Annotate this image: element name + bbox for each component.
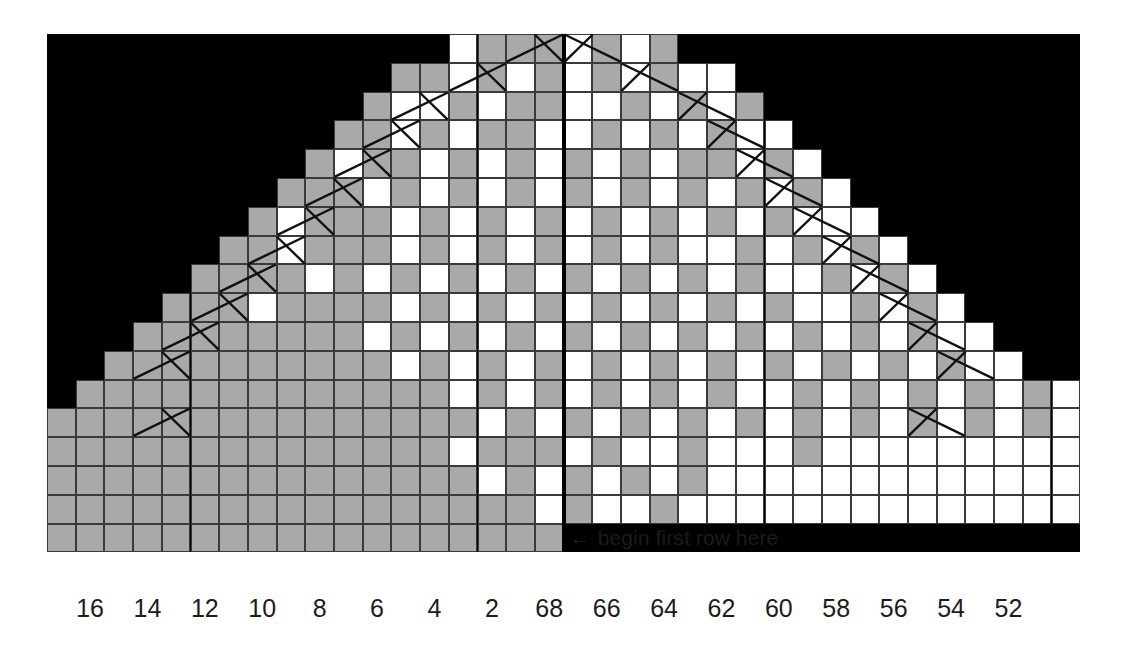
stitch-cell <box>707 63 736 92</box>
stitch-cell <box>822 380 851 409</box>
stitch-cell <box>391 207 420 236</box>
stitch-cell <box>678 120 707 149</box>
stitch-cell <box>564 408 593 437</box>
stitch-cell <box>765 264 794 293</box>
stitch-cell <box>994 495 1023 524</box>
stitch-cell <box>104 380 133 409</box>
stitch-cell <box>851 293 880 322</box>
stitch-cell <box>793 495 822 524</box>
column-label: 56 <box>880 594 908 623</box>
column-label: 62 <box>708 594 736 623</box>
stitch-cell <box>621 207 650 236</box>
column-label: 68 <box>535 594 563 623</box>
stitch-cell <box>621 408 650 437</box>
stitch-cell <box>104 524 133 553</box>
stitch-cell <box>650 437 679 466</box>
stitch-cell <box>305 380 334 409</box>
stitch-cell <box>506 408 535 437</box>
stitch-cell <box>162 380 191 409</box>
stitch-cell <box>162 466 191 495</box>
stitch-cell <box>248 495 277 524</box>
column-label: 54 <box>937 594 965 623</box>
stitch-cell <box>879 380 908 409</box>
stitch-cell <box>277 524 306 553</box>
stitch-cell <box>449 63 478 92</box>
stitch-cell <box>248 466 277 495</box>
stitch-cell <box>707 149 736 178</box>
stitch-cell <box>822 207 851 236</box>
stitch-cell <box>650 466 679 495</box>
stitch-cell <box>564 34 593 63</box>
stitch-cell <box>363 380 392 409</box>
stitch-cell <box>506 380 535 409</box>
stitch-cell <box>334 437 363 466</box>
stitch-cell <box>277 293 306 322</box>
stitch-cell <box>219 322 248 351</box>
stitch-cell <box>363 524 392 553</box>
knitting-chart: ←begin first row here 161412108642686664… <box>0 0 1124 650</box>
stitch-cell <box>1023 408 1052 437</box>
stitch-cell <box>736 149 765 178</box>
stitch-cell <box>219 495 248 524</box>
stitch-cell <box>76 380 105 409</box>
stitch-cell <box>564 178 593 207</box>
stitch-cell <box>363 178 392 207</box>
stitch-cell <box>564 437 593 466</box>
stitch-cell <box>191 322 220 351</box>
stitch-cell <box>391 380 420 409</box>
stitch-cell <box>650 264 679 293</box>
stitch-cell <box>908 322 937 351</box>
stitch-cell <box>592 236 621 265</box>
stitch-cell <box>305 524 334 553</box>
stitch-cell <box>334 466 363 495</box>
stitch-cell <box>248 236 277 265</box>
stitch-cell <box>391 495 420 524</box>
stitch-cell <box>793 293 822 322</box>
stitch-cell <box>191 264 220 293</box>
stitch-cell <box>219 293 248 322</box>
stitch-cell <box>765 178 794 207</box>
stitch-cell <box>621 322 650 351</box>
stitch-cell <box>334 236 363 265</box>
stitch-cell <box>248 437 277 466</box>
stitch-cell <box>449 92 478 121</box>
stitch-cell <box>793 149 822 178</box>
column-label: 64 <box>650 594 678 623</box>
stitch-cell <box>219 437 248 466</box>
stitch-cell <box>592 322 621 351</box>
stitch-cell <box>478 264 507 293</box>
stitch-cell <box>535 63 564 92</box>
stitch-cell <box>908 380 937 409</box>
stitch-cell <box>391 322 420 351</box>
stitch-cell <box>678 466 707 495</box>
stitch-cell <box>736 236 765 265</box>
stitch-cell <box>994 437 1023 466</box>
stitch-cell <box>793 380 822 409</box>
stitch-cell <box>363 293 392 322</box>
stitch-cell <box>707 236 736 265</box>
stitch-cell <box>305 466 334 495</box>
stitch-cell <box>592 380 621 409</box>
stitch-cell <box>420 207 449 236</box>
stitch-cell <box>449 322 478 351</box>
stitch-cell <box>592 351 621 380</box>
stitch-cell <box>678 236 707 265</box>
stitch-cell <box>478 351 507 380</box>
stitch-cell <box>391 264 420 293</box>
stitch-cell <box>535 380 564 409</box>
stitch-cell <box>420 351 449 380</box>
stitch-cell <box>104 351 133 380</box>
stitch-cell <box>191 380 220 409</box>
stitch-cell <box>707 207 736 236</box>
stitch-cell <box>1052 466 1081 495</box>
stitch-cell <box>908 351 937 380</box>
stitch-cell <box>793 437 822 466</box>
stitch-cell <box>765 236 794 265</box>
stitch-cell <box>650 63 679 92</box>
stitch-cell <box>506 524 535 553</box>
stitch-cell <box>678 207 707 236</box>
stitch-cell <box>334 293 363 322</box>
stitch-cell <box>1023 466 1052 495</box>
stitch-cell <box>678 437 707 466</box>
stitch-cell <box>391 149 420 178</box>
